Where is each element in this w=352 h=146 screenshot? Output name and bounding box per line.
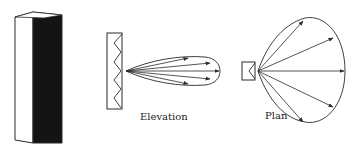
elevation-view <box>107 33 220 109</box>
speaker-cabinet <box>15 12 62 143</box>
cabinet-side-panel <box>15 12 33 143</box>
plan-view <box>242 18 345 123</box>
cabinet-front-panel <box>33 12 62 143</box>
diagram-canvas <box>0 0 352 146</box>
plan-rays <box>258 21 344 122</box>
plan-label: Plan <box>265 110 287 121</box>
elevation-rays <box>126 58 219 84</box>
elevation-label: Elevation <box>140 111 188 122</box>
